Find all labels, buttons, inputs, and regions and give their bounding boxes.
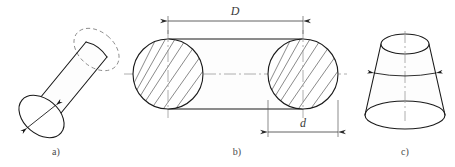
figure-a-caption: a) <box>52 146 60 158</box>
figure-b-oring-section: D d b) <box>124 4 350 158</box>
dimension-D: D <box>168 4 303 34</box>
figure-b-caption: b) <box>233 146 241 158</box>
dimension-d-label: d <box>300 116 307 130</box>
figure-c-caption: c) <box>401 146 409 158</box>
figure-sheet: a) <box>0 0 455 167</box>
dimension-D-label: D <box>230 4 240 18</box>
figure-c-truncated-cone: c) <box>365 31 445 158</box>
figure-a-oblique-cylinder: a) <box>11 20 128 158</box>
